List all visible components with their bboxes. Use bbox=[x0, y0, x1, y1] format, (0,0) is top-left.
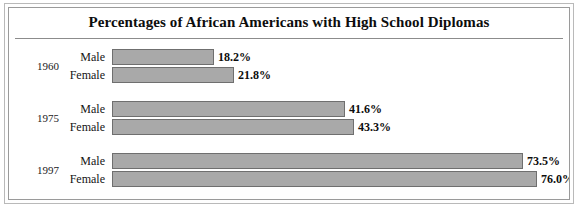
bar-female-1975 bbox=[112, 119, 354, 135]
year-group: 1975 Male 41.6% Female 43.3% bbox=[9, 100, 569, 136]
bar-female-1960 bbox=[112, 67, 234, 83]
chart-frame: Percentages of African Americans with Hi… bbox=[4, 3, 574, 204]
value-label-male-1975: 41.6% bbox=[345, 100, 382, 118]
bar-female-1997 bbox=[112, 171, 537, 187]
value-label-female-1960: 21.8% bbox=[234, 66, 271, 84]
series-label-male: Male bbox=[61, 100, 105, 118]
plot-area: 1960 Male 18.2% Female 21.8% 1975 Male bbox=[9, 42, 569, 199]
series-label-female: Female bbox=[61, 66, 105, 84]
series-label-female: Female bbox=[61, 170, 105, 188]
chart-frame-inner: Percentages of African Americans with Hi… bbox=[8, 7, 570, 200]
bar-male-1960 bbox=[112, 49, 214, 65]
series-label-female: Female bbox=[61, 118, 105, 136]
series-label-male: Male bbox=[61, 48, 105, 66]
value-label-male-1997: 73.5% bbox=[523, 152, 560, 170]
bar-row: Female 43.3% bbox=[9, 118, 569, 136]
year-group: 1960 Male 18.2% Female 21.8% bbox=[9, 48, 569, 84]
bar-male-1975 bbox=[112, 101, 345, 117]
value-label-female-1997: 76.0% bbox=[537, 170, 570, 188]
bar-row: Female 76.0% bbox=[9, 170, 569, 188]
value-label-female-1975: 43.3% bbox=[354, 118, 391, 136]
bar-row: Male 18.2% bbox=[9, 48, 569, 66]
chart-title: Percentages of African Americans with Hi… bbox=[9, 14, 569, 31]
bar-male-1997 bbox=[112, 153, 523, 169]
year-group: 1997 Male 73.5% Female 76.0% bbox=[9, 152, 569, 188]
value-label-male-1960: 18.2% bbox=[214, 48, 251, 66]
series-label-male: Male bbox=[61, 152, 105, 170]
bar-row: Female 21.8% bbox=[9, 66, 569, 84]
bar-row: Male 41.6% bbox=[9, 100, 569, 118]
bar-row: Male 73.5% bbox=[9, 152, 569, 170]
title-divider bbox=[15, 38, 563, 39]
